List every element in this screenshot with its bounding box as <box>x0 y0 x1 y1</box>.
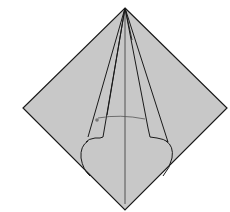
origami-diagram <box>0 0 230 212</box>
fold-arrow-head-icon <box>95 118 99 122</box>
